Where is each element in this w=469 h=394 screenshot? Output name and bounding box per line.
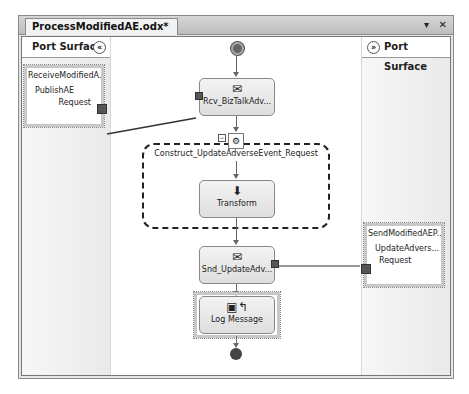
construct-message-icon: ⚙ xyxy=(228,133,244,149)
receive-port-handle[interactable] xyxy=(195,92,203,100)
receive-shape[interactable]: ✉ Rcv_BizTalkAdv... xyxy=(199,78,275,116)
tab-process-modified-ae[interactable]: ProcessModifiedAE.odx* xyxy=(25,18,178,35)
flow-arrow xyxy=(233,72,239,77)
send-envelope-icon: ✉ xyxy=(200,251,274,263)
close-icon[interactable]: ✕ xyxy=(439,19,447,30)
collapse-scope-icon[interactable]: − xyxy=(218,134,226,142)
flow-line xyxy=(236,56,237,73)
window-dropdown-icon[interactable]: ▾ xyxy=(424,19,429,30)
log-message-label: Log Message xyxy=(200,315,274,324)
start-node xyxy=(231,42,244,55)
flow-arrow xyxy=(233,240,239,245)
log-message-shape[interactable]: ▣↰ Log Message xyxy=(199,296,275,334)
document-tabstrip: ProcessModifiedAE.odx* ▾ ✕ xyxy=(19,16,453,35)
flow-arrow xyxy=(233,174,239,179)
receive-envelope-icon: ✉ xyxy=(200,83,274,95)
send-shape[interactable]: ✉ Snd_UpdateAdv... xyxy=(199,246,275,284)
flow-arrow xyxy=(233,127,239,132)
receive-shape-label: Rcv_BizTalkAdv... xyxy=(200,97,274,106)
log-message-selection-frame: ▣↰ Log Message xyxy=(194,292,280,338)
expression-icon: ▣↰ xyxy=(200,301,274,313)
send-port-handle[interactable] xyxy=(271,260,279,268)
flow-line xyxy=(236,161,237,175)
design-canvas[interactable]: Port Surface « ReceiveModifiedA... Publi… xyxy=(21,36,451,376)
construct-scope-label: Construct_UpdateAdverseEvent_Request xyxy=(144,149,328,158)
flow-line xyxy=(236,218,237,240)
transform-shape[interactable]: ⬇ Transform xyxy=(199,180,275,218)
send-shape-label: Snd_UpdateAdv... xyxy=(200,265,274,274)
end-node xyxy=(230,348,242,360)
orchestration-designer-window: ProcessModifiedAE.odx* ▾ ✕ Port Surface … xyxy=(18,15,454,379)
tab-controls: ▾ ✕ xyxy=(418,18,447,32)
transform-icon: ⬇ xyxy=(200,185,274,197)
transform-shape-label: Transform xyxy=(200,199,274,208)
